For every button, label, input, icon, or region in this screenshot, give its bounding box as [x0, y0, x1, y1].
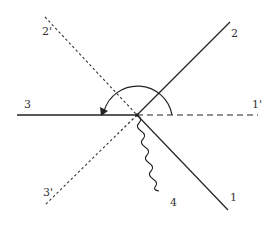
label-4: 4 — [170, 196, 177, 209]
line-2-prime — [45, 17, 137, 115]
line-2 — [137, 22, 230, 115]
label-2: 2 — [231, 27, 238, 40]
label-2-prime: 2' — [42, 25, 52, 38]
particle-vertex-diagram: 1 2 3 1' 2' 3' 4 — [0, 0, 274, 225]
label-3: 3 — [24, 98, 31, 111]
vertex-point — [135, 113, 139, 117]
label-1: 1 — [230, 191, 237, 204]
line-3-prime — [45, 115, 137, 205]
line-1 — [137, 115, 228, 210]
label-1-prime: 1' — [252, 98, 262, 111]
label-3-prime: 3' — [43, 186, 53, 199]
